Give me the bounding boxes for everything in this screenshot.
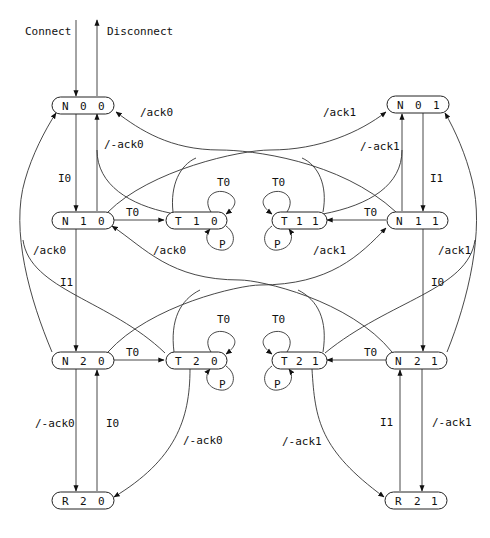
svg-text:2: 2 xyxy=(414,495,421,508)
label-t21-loop-t0: T0 xyxy=(272,313,285,326)
node-n20: N 2 0 xyxy=(52,352,114,369)
edge-t10-arc xyxy=(172,158,196,212)
svg-text:2: 2 xyxy=(80,355,87,368)
label-to-n00: /ack0 xyxy=(140,106,173,119)
svg-text:2: 2 xyxy=(414,355,421,368)
edge-t21-arc xyxy=(298,290,324,352)
node-t21: T 2 1 xyxy=(272,352,327,369)
label-r20-n20: I0 xyxy=(106,417,119,430)
svg-text:N: N xyxy=(62,215,69,228)
edge-t11-loop-t0 xyxy=(263,191,290,214)
label-n21-n01: /ack1 xyxy=(438,244,471,257)
svg-text:R: R xyxy=(395,495,402,508)
label-n20-r20: /-ack0 xyxy=(35,417,75,430)
label-connect: Connect xyxy=(25,25,71,38)
svg-text:0: 0 xyxy=(98,355,105,368)
svg-text:T: T xyxy=(175,355,182,368)
node-n10: N 1 0 xyxy=(52,212,114,229)
edge-t11-arc xyxy=(302,158,324,212)
edge-t21-loop-t0 xyxy=(263,331,290,354)
label-r21-n21: I1 xyxy=(380,416,393,429)
node-t20: T 2 0 xyxy=(166,352,227,369)
label-t20-n11: /ack1 xyxy=(313,244,346,257)
svg-text:0: 0 xyxy=(415,99,422,112)
svg-text:1: 1 xyxy=(431,355,438,368)
label-t10-loop-t0: T0 xyxy=(217,176,230,189)
svg-text:0: 0 xyxy=(98,100,105,113)
edge-t20-loop-t0 xyxy=(208,331,235,354)
edge-to-n00-ack0 xyxy=(116,112,396,212)
svg-text:1: 1 xyxy=(296,215,303,228)
svg-text:2: 2 xyxy=(80,495,87,508)
svg-text:1: 1 xyxy=(433,99,440,112)
svg-text:1: 1 xyxy=(431,495,438,508)
svg-text:0: 0 xyxy=(211,215,218,228)
label-n00-n10: I0 xyxy=(58,172,71,185)
label-t11-loop-t0: T0 xyxy=(272,176,285,189)
label-t20-loop-p: P xyxy=(219,378,226,391)
label-n20-t20: T0 xyxy=(126,346,139,359)
node-n21: N 2 1 xyxy=(386,352,447,369)
label-n11-n21: I0 xyxy=(431,276,444,289)
edge-to-n01-ack1 xyxy=(108,112,386,212)
svg-text:2: 2 xyxy=(193,355,200,368)
edge-n20-n00 xyxy=(20,113,56,352)
node-n11: N 1 1 xyxy=(387,212,448,229)
label-t11-loop-p: P xyxy=(274,238,281,251)
edge-t20-r20 xyxy=(114,369,190,497)
label-n11-t11: T0 xyxy=(364,206,377,219)
svg-text:N: N xyxy=(62,355,69,368)
svg-text:R: R xyxy=(62,495,69,508)
label-t21-loop-p: P xyxy=(274,378,281,391)
svg-text:1: 1 xyxy=(80,215,87,228)
node-t10: T 1 0 xyxy=(166,212,227,229)
node-n01: N 0 1 xyxy=(387,96,449,113)
svg-text:2: 2 xyxy=(296,355,303,368)
label-disconnect: Disconnect xyxy=(107,25,173,38)
node-r20: R 2 0 xyxy=(52,492,114,509)
svg-text:1: 1 xyxy=(312,355,319,368)
edge-t10-loop-t0 xyxy=(208,191,235,214)
svg-text:T: T xyxy=(175,215,182,228)
label-n20-n00: /ack0 xyxy=(33,244,66,257)
label-t21-r21: /-ack1 xyxy=(282,435,322,448)
state-diagram: Connect Disconnect I0 /-ack0 /ack0 /ack1… xyxy=(0,0,490,538)
svg-text:N: N xyxy=(396,215,403,228)
svg-text:0: 0 xyxy=(211,355,218,368)
svg-text:1: 1 xyxy=(415,215,422,228)
node-r21: R 2 1 xyxy=(385,492,447,509)
edge-n00-t10-curve xyxy=(97,150,170,213)
svg-text:0: 0 xyxy=(98,495,105,508)
svg-text:N: N xyxy=(62,100,69,113)
label-n21-r21: /-ack1 xyxy=(432,416,472,429)
svg-text:0: 0 xyxy=(80,100,87,113)
svg-text:0: 0 xyxy=(98,215,105,228)
label-n10-t10: T0 xyxy=(126,206,139,219)
svg-text:N: N xyxy=(395,355,402,368)
svg-text:1: 1 xyxy=(193,215,200,228)
edge-n21-n01 xyxy=(445,113,477,352)
label-n10-n00: /-ack0 xyxy=(104,138,144,151)
edge-n11-t11-curve xyxy=(323,150,402,214)
label-n10-n20: I1 xyxy=(60,276,73,289)
label-n21-t21: T0 xyxy=(364,346,377,359)
node-t11: T 1 1 xyxy=(272,212,327,229)
label-t20-r20: /-ack0 xyxy=(183,434,223,447)
label-t10-loop-p: P xyxy=(219,238,226,251)
svg-text:1: 1 xyxy=(432,215,439,228)
svg-text:T: T xyxy=(281,355,288,368)
label-n11-n01: /-ack1 xyxy=(360,140,400,153)
label-to-n01: /ack1 xyxy=(323,106,356,119)
node-n00: N 0 0 xyxy=(52,97,114,114)
label-t20-loop-t0: T0 xyxy=(217,313,230,326)
label-t21-n10: /ack0 xyxy=(153,244,186,257)
edge-t21-r21 xyxy=(312,369,384,497)
svg-text:1: 1 xyxy=(312,215,319,228)
svg-text:N: N xyxy=(397,99,404,112)
label-n01-n11: I1 xyxy=(430,172,443,185)
svg-text:T: T xyxy=(281,215,288,228)
